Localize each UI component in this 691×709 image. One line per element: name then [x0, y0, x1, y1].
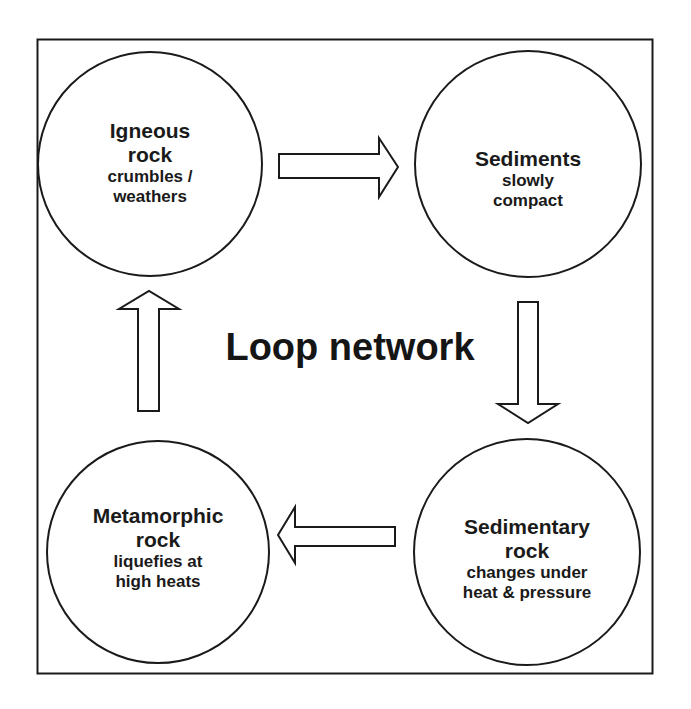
node-sediments-sub-2: compact — [428, 191, 628, 211]
node-igneous-title-1: Igneous — [50, 119, 250, 143]
diagram-title: Loop network — [200, 326, 500, 369]
node-sedimentary-title-2: rock — [417, 539, 637, 563]
node-sedimentary-title-1: Sedimentary — [417, 515, 637, 539]
arrow-down-icon — [498, 302, 558, 423]
node-metamorphic-label: Metamorphic rock liquefies at high heats — [58, 504, 258, 591]
node-metamorphic-sub-2: high heats — [58, 572, 258, 592]
node-sediments-sub-1: slowly — [428, 171, 628, 191]
node-igneous-label: Igneous rock crumbles / weathers — [50, 119, 250, 206]
node-igneous-title-2: rock — [50, 143, 250, 167]
node-metamorphic-title-1: Metamorphic — [58, 504, 258, 528]
arrow-right-icon — [279, 138, 398, 197]
node-sediments-title-1: Sediments — [428, 147, 628, 171]
node-sedimentary-label: Sedimentary rock changes under heat & pr… — [417, 515, 637, 602]
node-igneous-sub-2: weathers — [50, 187, 250, 207]
node-metamorphic-sub-1: liquefies at — [58, 552, 258, 572]
node-sediments-label: Sediments slowly compact — [428, 147, 628, 210]
node-igneous-sub-1: crumbles / — [50, 167, 250, 187]
node-metamorphic-title-2: rock — [58, 528, 258, 552]
arrow-up-icon — [119, 291, 179, 411]
node-sedimentary-sub-1: changes under — [417, 563, 637, 583]
arrow-left-icon — [278, 507, 395, 563]
node-sedimentary-sub-2: heat & pressure — [417, 583, 637, 603]
